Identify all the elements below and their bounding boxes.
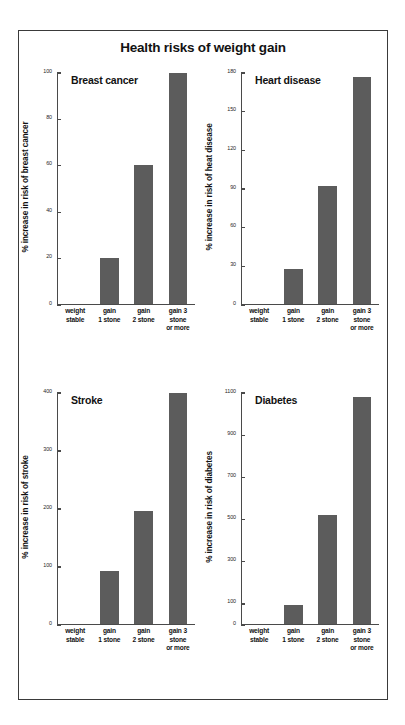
tick-label: 0 (49, 301, 52, 306)
bar-slot (161, 393, 195, 624)
tick-label: 80 (46, 115, 52, 120)
bar-group (58, 73, 195, 304)
tick-label: 60 (46, 161, 52, 166)
panel-heart-disease: % increase in risk of heat disease Heart… (203, 59, 387, 379)
tick-label: 100 (227, 599, 236, 604)
bar (284, 269, 302, 304)
bar (134, 165, 152, 304)
x-axis-label: weight stable (242, 307, 276, 333)
y-axis-label: % increase in risk of stroke (21, 391, 35, 623)
bar-slot (311, 73, 345, 304)
x-axis-label: gain 3 stone or more (161, 627, 195, 653)
bar-slot (127, 73, 161, 304)
tick-label: 100 (43, 563, 52, 568)
x-axis-labels: weight stablegain 1 stonegain 2 stonegai… (242, 307, 379, 333)
tick-label: 900 (227, 431, 236, 436)
tick-label: 180 (227, 69, 236, 74)
bar-slot (345, 73, 379, 304)
x-axis-label: gain 2 stone (127, 627, 161, 653)
x-axis-label: gain 1 stone (92, 627, 126, 653)
x-axis-label: gain 2 stone (311, 307, 345, 333)
y-axis-label: % increase in risk of heat disease (205, 71, 219, 303)
tick-label: 500 (227, 515, 236, 520)
bar-slot (242, 73, 276, 304)
x-axis-label: gain 1 stone (276, 307, 310, 333)
bar-slot (276, 73, 310, 304)
tick-label: 300 (227, 557, 236, 562)
bar (284, 605, 302, 624)
plot-area: Heart disease 0306090120150180 (241, 73, 379, 305)
panel-stroke: % increase in risk of stroke Stroke 0100… (19, 379, 203, 699)
bar (353, 77, 371, 304)
x-axis-label: gain 2 stone (311, 627, 345, 653)
x-axis-label: gain 3 stone or more (345, 627, 379, 653)
tick-mark (241, 624, 245, 625)
tick-label: 0 (233, 301, 236, 306)
bar-slot (161, 73, 195, 304)
x-axis-label: gain 1 stone (92, 307, 126, 333)
tick-label: 0 (233, 621, 236, 626)
panel-breast-cancer: % increase in risk of breast cancer Brea… (19, 59, 203, 379)
tick-label: 1100 (225, 389, 236, 394)
x-axis-label: weight stable (242, 627, 276, 653)
tick-label: 40 (46, 208, 52, 213)
x-axis-label: weight stable (58, 627, 92, 653)
bar-slot (92, 73, 126, 304)
x-axis-label: gain 2 stone (127, 307, 161, 333)
y-axis-label: % increase in risk of diabetes (205, 391, 219, 623)
tick-label: 100 (43, 69, 52, 74)
bar (169, 393, 187, 624)
tick-label: 700 (227, 473, 236, 478)
bar-slot (92, 393, 126, 624)
tick-mark (57, 304, 61, 305)
bar-slot (276, 393, 310, 624)
bar-group (242, 73, 379, 304)
bar (100, 258, 118, 304)
tick-label: 150 (227, 107, 236, 112)
bar (318, 186, 336, 304)
y-axis-label: % increase in risk of breast cancer (21, 71, 35, 303)
x-axis-label: gain 3 stone or more (161, 307, 195, 333)
x-axis-labels: weight stablegain 1 stonegain 2 stonegai… (58, 627, 195, 653)
tick-label: 20 (46, 254, 52, 259)
bar-slot (345, 393, 379, 624)
tick-label: 0 (49, 621, 52, 626)
plot-area: Stroke 0100200300400 (57, 393, 195, 625)
bar-slot (127, 393, 161, 624)
tick-label: 120 (227, 146, 236, 151)
tick-label: 400 (43, 389, 52, 394)
tick-label: 60 (230, 223, 236, 228)
x-axis-labels: weight stablegain 1 stonegain 2 stonegai… (242, 627, 379, 653)
bar-slot (58, 73, 92, 304)
plot-area: Diabetes 01003005007009001100 (241, 393, 379, 625)
tick-label: 90 (230, 185, 236, 190)
tick-mark (57, 624, 61, 625)
plot-area: Breast cancer 020406080100 (57, 73, 195, 305)
bar-slot (311, 393, 345, 624)
bar (353, 397, 371, 624)
bar-group (58, 393, 195, 624)
tick-label: 30 (230, 262, 236, 267)
bar-slot (58, 393, 92, 624)
tick-label: 300 (43, 447, 52, 452)
tick-label: 200 (43, 505, 52, 510)
chart-figure: Health risks of weight gain % increase i… (18, 30, 388, 700)
bar-slot (242, 393, 276, 624)
bar-group (242, 393, 379, 624)
panel-diabetes: % increase in risk of diabetes Diabetes … (203, 379, 387, 699)
x-axis-label: gain 3 stone or more (345, 307, 379, 333)
x-axis-labels: weight stablegain 1 stonegain 2 stonegai… (58, 307, 195, 333)
x-axis-label: gain 1 stone (276, 627, 310, 653)
figure-title: Health risks of weight gain (19, 40, 387, 55)
tick-mark (241, 304, 245, 305)
x-axis-label: weight stable (58, 307, 92, 333)
panel-grid: % increase in risk of breast cancer Brea… (19, 59, 387, 699)
bar (318, 515, 336, 624)
bar (100, 571, 118, 624)
bar (134, 511, 152, 624)
bar (169, 73, 187, 304)
